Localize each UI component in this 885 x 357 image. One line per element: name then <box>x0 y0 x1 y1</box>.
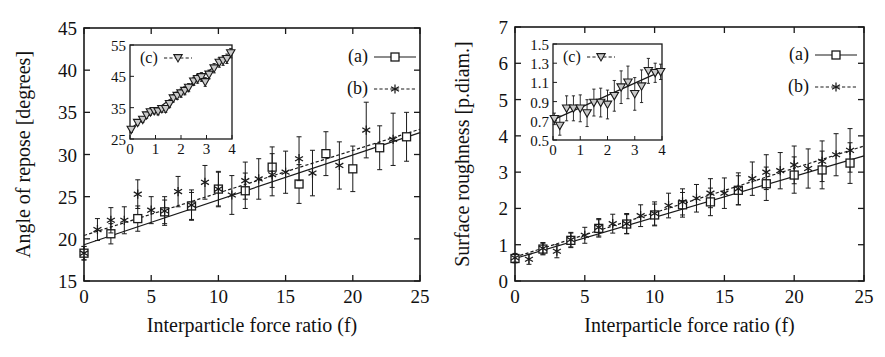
inset-y-tick-label: 55 <box>111 38 126 54</box>
y-tick-label: 30 <box>58 145 77 166</box>
y-tick-label: 1 <box>499 235 509 256</box>
data-point-square <box>349 165 357 173</box>
inset-y-tick-label: 1.3 <box>530 56 549 72</box>
inset-x-tick-label: 4 <box>658 142 666 158</box>
y-tick-label: 7 <box>499 17 509 38</box>
data-point-square <box>295 180 303 188</box>
x-tick-label: 15 <box>715 286 734 307</box>
inset-y-tick-label: 0.5 <box>530 133 549 149</box>
x-tick-label: 0 <box>79 286 89 307</box>
inset-x-tick-label: 0 <box>126 141 134 157</box>
x-axis-title: Interparticle force ratio (f) <box>584 314 794 337</box>
y-tick-label: 2 <box>499 198 509 219</box>
x-tick-label: 20 <box>343 286 362 307</box>
y-tick-label: 20 <box>58 229 77 250</box>
data-point-square <box>403 133 411 141</box>
x-tick-label: 15 <box>276 286 295 307</box>
x-tick-label: 10 <box>209 286 228 307</box>
inset-x-tick-label: 2 <box>177 141 185 157</box>
inset-x-tick-label: 0 <box>549 142 557 158</box>
chart-panel-angle-of-repose: 051015202515202530354045Interparticle fo… <box>0 0 443 357</box>
y-axis-title: Surface roughness [p.diam.] <box>451 41 474 267</box>
inset-y-tick-label: 45 <box>111 69 126 85</box>
x-tick-label: 20 <box>785 286 804 307</box>
chart-svg-surface-roughness: 051015202501234567Interparticle force ra… <box>443 0 885 357</box>
y-tick-label: 6 <box>499 53 509 74</box>
x-tick-label: 10 <box>645 286 664 307</box>
inset-x-tick-label: 1 <box>577 142 585 158</box>
x-tick-label: 5 <box>146 286 156 307</box>
y-tick-label: 5 <box>499 90 509 111</box>
x-tick-label: 25 <box>411 286 430 307</box>
legend-marker-square <box>391 53 399 61</box>
y-tick-label: 4 <box>499 126 509 147</box>
inset-group: 0123425354555(c) <box>111 38 236 157</box>
inset-y-tick-label: 1.5 <box>530 37 549 53</box>
x-tick-label: 0 <box>510 286 520 307</box>
inset-x-tick-label: 2 <box>604 142 612 158</box>
inset-x-tick-label: 3 <box>203 141 211 157</box>
inset-y-tick-label: 0.9 <box>530 95 549 111</box>
x-axis-title: Interparticle force ratio (f) <box>147 314 357 337</box>
data-point-square <box>134 215 142 223</box>
legend-marker-square <box>832 51 840 59</box>
data-point-square <box>322 150 330 158</box>
chart-panel-surface-roughness: 051015202501234567Interparticle force ra… <box>443 0 885 357</box>
y-tick-label: 15 <box>58 271 77 292</box>
inset-label: (c) <box>563 48 581 66</box>
y-tick-label: 40 <box>58 60 77 81</box>
legend-label-b: (b) <box>347 78 368 99</box>
legend-label-a: (a) <box>348 46 368 67</box>
inset-y-tick-label: 25 <box>111 132 126 148</box>
legend-label-b: (b) <box>788 76 809 97</box>
inset-x-tick-label: 3 <box>631 142 639 158</box>
data-point-square <box>376 144 384 152</box>
inset-label: (c) <box>140 49 158 67</box>
legend-label-a: (a) <box>789 44 809 65</box>
inset-x-tick-label: 4 <box>228 141 236 157</box>
y-tick-label: 3 <box>499 162 509 183</box>
y-axis-title: Angle of repose [degrees] <box>12 51 35 258</box>
chart-svg-angle-of-repose: 051015202515202530354045Interparticle fo… <box>0 0 443 357</box>
y-tick-label: 25 <box>58 187 77 208</box>
inset-y-tick-label: 35 <box>111 101 126 117</box>
inset-y-tick-label: 0.7 <box>530 114 549 130</box>
x-tick-label: 25 <box>855 286 874 307</box>
inset-x-tick-label: 1 <box>152 141 160 157</box>
x-tick-label: 5 <box>580 286 590 307</box>
y-tick-label: 45 <box>58 18 77 39</box>
y-tick-label: 35 <box>58 102 77 123</box>
inset-y-tick-label: 1.1 <box>530 75 549 91</box>
y-tick-label: 0 <box>499 271 509 292</box>
figure-container: 051015202515202530354045Interparticle fo… <box>0 0 885 357</box>
